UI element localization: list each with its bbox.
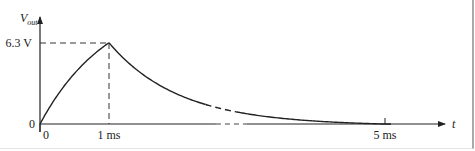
series-discharging-break [206, 105, 237, 112]
chart: Vout t 0 6.3 V 0 1 ms 5 ms [0, 0, 475, 151]
series-discharging-curve-continued [237, 112, 391, 124]
x-axis-label: t [452, 117, 456, 131]
y-tick-label-6.3: 6.3 V [6, 36, 33, 50]
series-charging-curve [40, 43, 109, 124]
x-tick-label-1ms: 1 ms [97, 128, 120, 142]
y-tick-label-0: 0 [29, 117, 35, 131]
x-tick-label-5ms: 5 ms [373, 128, 396, 142]
x-tick-label-0: 0 [43, 128, 49, 142]
series-discharging-curve [109, 43, 206, 105]
y-axis-label: Vout [20, 11, 38, 27]
